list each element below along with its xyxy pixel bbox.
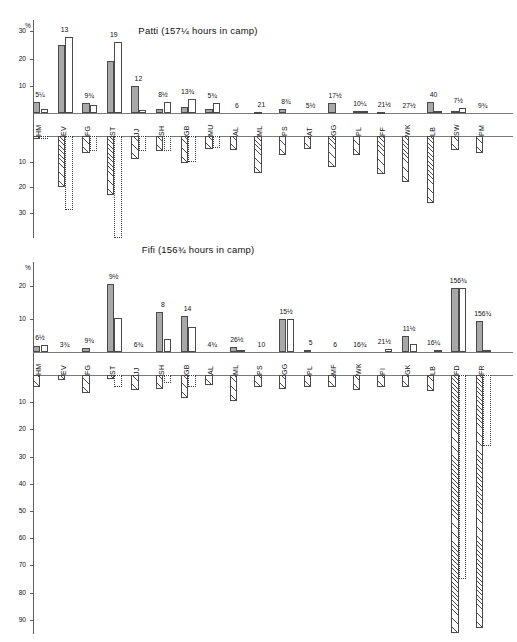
bar-negative-hatched — [427, 136, 435, 203]
bar-negative-dotted — [41, 136, 49, 139]
y-tick-neg-80-fifi — [30, 593, 34, 594]
category-label-fg: FG — [84, 355, 91, 375]
bar-positive-observed — [476, 321, 484, 352]
bar-negative-hatched — [205, 375, 213, 385]
y-tick-label-neg-50-fifi: 50 — [10, 507, 26, 514]
bar-negative-hatched — [33, 375, 41, 387]
y-tick-label-neg-60-fifi: 60 — [10, 534, 26, 541]
chart-panel-fifi: Fifi (156¾ hours in camp)%10201020304050… — [0, 0, 517, 642]
chart-title-fifi: Fifi (156¾ hours in camp) — [142, 244, 255, 255]
bar-negative-hatched — [402, 375, 410, 387]
category-label-fr: FR — [478, 355, 485, 375]
bar-value-label: 6½ — [28, 334, 52, 341]
bar-positive-expected — [459, 288, 467, 352]
bar-value-label: 11½ — [397, 325, 421, 332]
bar-positive-observed — [451, 288, 459, 352]
category-label-ps: PS — [256, 355, 263, 375]
bar-positive-expected — [410, 344, 418, 352]
bar-negative-hatched — [328, 136, 336, 167]
y-tick-neg-50-fifi — [30, 511, 34, 512]
category-label-al: AL — [207, 355, 214, 375]
bar-positive-expected — [483, 350, 491, 352]
bar-negative-dotted — [188, 375, 196, 387]
y-tick-neg-90-fifi — [30, 620, 34, 621]
y-tick-label-neg-10-fifi: 10 — [10, 398, 26, 405]
bar-negative-hatched — [377, 136, 385, 174]
bar-negative-hatched — [304, 136, 312, 149]
category-band-line-fifi — [33, 375, 513, 376]
bar-positive-expected — [164, 339, 172, 352]
bar-positive-expected — [385, 349, 393, 352]
bar-negative-hatched — [156, 375, 164, 389]
category-label-pl: PL — [306, 355, 313, 375]
bar-negative-hatched — [451, 136, 459, 150]
bar-negative-hatched — [476, 375, 484, 628]
bar-negative-hatched — [427, 375, 435, 391]
bar-negative-hatched — [131, 136, 139, 159]
bar-negative-hatched — [279, 375, 287, 389]
y-tick-neg-20-fifi — [30, 429, 34, 430]
bar-negative-hatched — [181, 375, 189, 398]
bar-negative-hatched — [353, 136, 361, 155]
bar-negative-hatched — [279, 136, 287, 155]
bar-negative-hatched — [254, 136, 262, 173]
bar-value-label: 16¾ — [348, 341, 372, 348]
bar-positive-observed — [181, 316, 189, 352]
bar-value-label: 4¾ — [200, 341, 224, 348]
category-label-lb: LB — [429, 355, 436, 375]
bar-negative-hatched — [107, 136, 115, 195]
bar-negative-hatched — [254, 375, 262, 387]
bar-value-label: 10 — [249, 341, 273, 348]
bar-value-label: 6 — [323, 341, 347, 348]
bar-negative-hatched — [58, 136, 66, 187]
bar-positive-observed — [107, 284, 115, 352]
bar-positive-expected — [287, 319, 295, 352]
category-label-sh: SH — [158, 355, 165, 375]
bar-negative-hatched — [82, 375, 90, 393]
bar-negative-hatched — [33, 136, 41, 139]
bar-value-label: 5 — [299, 339, 323, 346]
bar-positive-observed — [304, 350, 312, 352]
bar-negative-dotted — [65, 136, 73, 210]
bar-value-label: 156¾ — [446, 277, 470, 284]
bar-value-label: 156¾ — [471, 310, 495, 317]
bar-positive-observed — [402, 336, 410, 353]
y-tick-neg-40-fifi — [30, 484, 34, 485]
bar-negative-hatched — [377, 375, 385, 387]
bar-positive-expected — [114, 318, 122, 352]
bar-negative-hatched — [205, 136, 213, 149]
y-tick-label-neg-80-fifi: 80 — [10, 589, 26, 596]
category-label-ml: ML — [232, 355, 239, 375]
bar-value-label: 26½ — [225, 336, 249, 343]
bar-positive-observed — [33, 346, 41, 352]
bar-value-label: 16¼ — [422, 339, 446, 346]
bar-negative-hatched — [156, 136, 164, 151]
bar-value-label: 21½ — [372, 338, 396, 345]
bar-negative-dotted — [90, 136, 98, 151]
bar-negative-dotted — [164, 136, 172, 151]
bar-negative-hatched — [304, 375, 312, 387]
y-tick-label-neg-20-fifi: 20 — [10, 425, 26, 432]
y-tick-neg-70-fifi — [30, 565, 34, 566]
bar-negative-dotted — [114, 375, 122, 387]
y-axis-line-fifi — [33, 262, 34, 634]
bar-negative-hatched — [476, 136, 484, 153]
bar-positive-observed — [82, 348, 90, 352]
category-label-gb: GB — [183, 355, 190, 375]
bar-positive-observed — [230, 347, 238, 352]
bar-negative-hatched — [353, 375, 361, 390]
bar-negative-dotted — [188, 136, 196, 162]
bar-negative-dotted — [139, 136, 147, 151]
bar-value-label: 14 — [176, 305, 200, 312]
y-tick-label-neg-90-fifi: 90 — [10, 616, 26, 623]
y-tick-pos-10-fifi — [30, 319, 34, 320]
bar-negative-hatched — [230, 375, 238, 401]
bar-value-label: 9½ — [102, 273, 126, 280]
bar-negative-hatched — [402, 136, 410, 182]
bar-negative-hatched — [451, 375, 459, 633]
bar-positive-expected — [41, 345, 49, 352]
category-label-hm: HM — [35, 355, 42, 375]
y-tick-neg-10-fifi — [30, 402, 34, 403]
bar-positive-expected — [434, 350, 442, 352]
bar-positive-observed — [279, 319, 287, 352]
